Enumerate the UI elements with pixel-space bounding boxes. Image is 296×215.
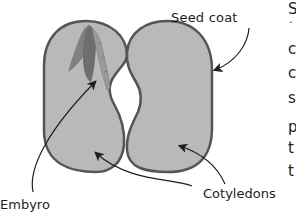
edge-text-fragment: t xyxy=(288,141,294,156)
right-cotyledon xyxy=(127,21,212,172)
seed-coat-label: Seed coat xyxy=(171,11,238,24)
edge-text-fragment: . xyxy=(289,14,293,25)
edge-text-fragment: t xyxy=(288,164,294,179)
seed-diagram xyxy=(0,0,296,215)
cotyledons-label: Cotyledons xyxy=(203,187,276,200)
edge-text-fragment: s xyxy=(288,91,296,106)
edge-text-fragment: c xyxy=(288,66,296,81)
seed-coat-arrow xyxy=(215,28,249,70)
edge-text-fragment: p xyxy=(288,120,296,135)
edge-text-fragment: c xyxy=(288,42,296,57)
embryo-label: Embyro xyxy=(0,198,50,211)
